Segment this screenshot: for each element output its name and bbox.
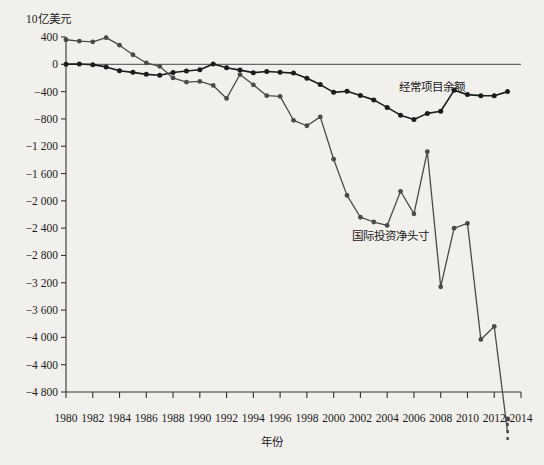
x-axis-tick-label: 1996 xyxy=(269,412,292,424)
data-point xyxy=(130,70,135,75)
data-point xyxy=(251,82,256,87)
data-point xyxy=(478,337,483,342)
data-point xyxy=(465,221,470,226)
x-axis-tick-label: 1990 xyxy=(188,412,211,424)
x-axis-title: 年份 xyxy=(0,433,544,449)
data-point xyxy=(184,69,189,74)
data-point xyxy=(224,96,229,101)
data-point xyxy=(465,92,470,97)
y-axis-tick-label-text: −4 800 xyxy=(26,386,58,398)
series-group xyxy=(64,35,511,444)
y-axis-tick-label-text: 0 xyxy=(52,58,58,70)
data-point xyxy=(438,284,443,289)
data-point xyxy=(358,215,363,220)
data-point xyxy=(371,97,376,102)
y-axis-tick-label-text: −2 000 xyxy=(26,195,58,207)
data-point xyxy=(345,193,350,198)
data-point xyxy=(331,90,336,95)
data-point xyxy=(385,105,390,110)
data-point xyxy=(425,111,430,116)
data-point xyxy=(505,89,510,94)
data-point xyxy=(64,37,69,42)
data-point xyxy=(304,76,309,81)
data-point xyxy=(412,211,417,216)
data-point xyxy=(291,118,296,123)
y-axis-tick-label-text: −2 400 xyxy=(26,222,58,234)
y-axis-tick-label-text: −3 600 xyxy=(26,304,58,316)
x-axis-tick-label: 2008 xyxy=(429,412,452,424)
data-point xyxy=(318,114,323,119)
x-axis-tick-label: 1984 xyxy=(108,412,131,424)
data-point xyxy=(478,93,483,98)
data-point xyxy=(224,65,229,70)
data-point xyxy=(264,93,269,98)
data-point xyxy=(197,67,202,72)
data-point xyxy=(144,72,149,77)
y-axis-tick-label-text: −3 200 xyxy=(26,277,58,289)
data-point xyxy=(171,70,176,75)
x-axis-tick-label: 1980 xyxy=(55,412,78,424)
data-point xyxy=(492,324,497,329)
data-point xyxy=(318,82,323,87)
data-point xyxy=(90,39,95,44)
data-point xyxy=(278,70,283,75)
data-point xyxy=(425,149,430,154)
y-axis-tick-label-text: −1 600 xyxy=(26,168,58,180)
series-label-net-international-investment-position: 国际投资净头寸 xyxy=(352,227,429,243)
data-point xyxy=(184,80,189,85)
data-point xyxy=(157,64,162,69)
data-point xyxy=(438,109,443,114)
data-point xyxy=(398,189,403,194)
plot-area xyxy=(0,0,544,465)
data-point xyxy=(90,62,95,67)
data-point xyxy=(77,61,82,66)
x-axis-tick-label: 1986 xyxy=(135,412,158,424)
x-axis-tick-label: 2012 xyxy=(483,412,506,424)
x-axis-tick-label: 1992 xyxy=(215,412,238,424)
data-point xyxy=(331,157,336,162)
data-point xyxy=(411,117,416,122)
data-point xyxy=(251,70,256,75)
data-point xyxy=(304,123,309,128)
x-axis-tick-label: 1982 xyxy=(81,412,104,424)
y-axis-tick-label-text: −800 xyxy=(34,113,58,125)
data-point xyxy=(278,94,283,99)
x-axis-tick-label: 2004 xyxy=(376,412,399,424)
data-point xyxy=(398,113,403,118)
x-axis-tick-label: 2002 xyxy=(349,412,372,424)
data-point xyxy=(358,93,363,98)
data-point xyxy=(492,93,497,98)
y-axis-tick-label-text: −4 000 xyxy=(26,331,58,343)
data-point xyxy=(64,62,69,67)
series-line-niip xyxy=(66,38,508,433)
data-point xyxy=(291,71,296,76)
x-axis-tick-label: 2006 xyxy=(402,412,425,424)
y-axis-tick-label-text: −4 400 xyxy=(26,359,58,371)
data-point xyxy=(104,64,109,69)
x-axis-tick-label: 2014 xyxy=(510,412,533,424)
chart-container: 10亿美元 4000−400−800−1 200−1 600−2 000−2 4… xyxy=(0,0,544,465)
y-axis-unit-label: 10亿美元 xyxy=(26,10,71,26)
data-point xyxy=(77,39,82,44)
data-point xyxy=(197,79,202,84)
x-axis-tick-label: 1994 xyxy=(242,412,265,424)
data-point xyxy=(131,52,136,57)
data-point xyxy=(104,35,109,40)
y-axis-tick-label-text: −1 200 xyxy=(26,140,58,152)
data-point xyxy=(452,226,457,231)
data-point xyxy=(171,76,176,81)
data-point xyxy=(211,62,216,67)
data-point xyxy=(157,73,162,78)
x-axis-tick-label: 1988 xyxy=(162,412,185,424)
x-axis-tick-label: 1998 xyxy=(295,412,318,424)
data-point xyxy=(264,69,269,74)
data-point xyxy=(144,61,149,66)
data-point xyxy=(237,68,242,73)
x-axis-tick-label: 2010 xyxy=(456,412,479,424)
x-axis-tick-label: 2000 xyxy=(322,412,345,424)
series-label-current-account-balance: 经常项目余额 xyxy=(399,78,465,94)
data-point xyxy=(238,72,243,77)
data-point xyxy=(117,43,122,48)
y-axis-tick-label-text: −2 800 xyxy=(26,249,58,261)
data-point xyxy=(371,220,376,225)
